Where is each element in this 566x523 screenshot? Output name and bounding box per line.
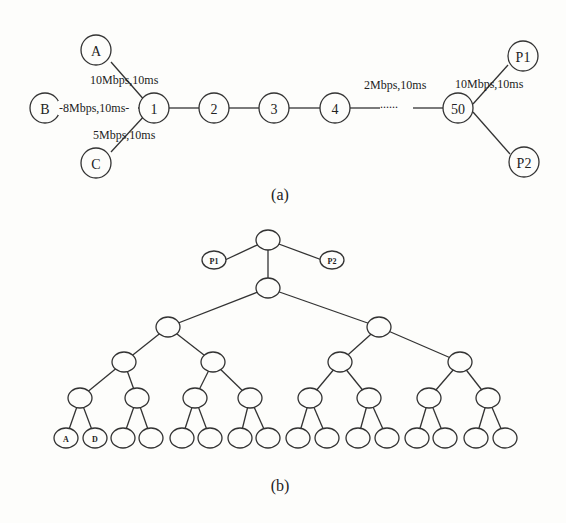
node-1-label: 1 [151, 102, 158, 117]
tree-root [256, 230, 280, 250]
node-P1-label: P1 [516, 50, 531, 65]
link-label-B-1: -8Mbps,10ms- [59, 101, 129, 115]
link-label-C-1: 5Mbps,10ms [93, 128, 156, 142]
link-label-50-P: 10Mbps,10ms [455, 77, 524, 91]
tree-node-P1-label: P1 [210, 257, 219, 266]
node-50-label: 50 [451, 102, 465, 117]
network-topology-figure: A B C 1 2 3 4 50 P1 P2 10Mbps,10ms -8Mbp… [0, 0, 566, 523]
node-C-label: C [91, 157, 100, 172]
link-label-A-1: 10Mbps,10ms [90, 73, 159, 87]
node-A-label: A [91, 44, 102, 59]
node-4-label: 4 [332, 102, 339, 117]
caption-a: (a) [271, 186, 289, 204]
node-P2-label: P2 [517, 156, 532, 171]
caption-b: (b) [271, 477, 290, 495]
chain-ellipsis: ...... [380, 97, 398, 111]
tree-leaf-D-label: D [92, 435, 98, 444]
tree-leaf-A-label: A [63, 435, 69, 444]
tree-node-P2-label: P2 [328, 257, 337, 266]
node-3-label: 3 [271, 102, 278, 117]
node-B-label: B [40, 102, 49, 117]
link-label-chain: 2Mbps,10ms [364, 78, 427, 92]
node-2-label: 2 [211, 102, 218, 117]
